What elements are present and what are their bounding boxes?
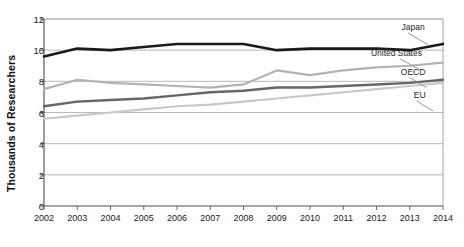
x-tick-label-2004: 2004: [100, 213, 120, 223]
x-tick-label-2006: 2006: [167, 213, 187, 223]
x-axis-tick-labels: 2002200320042005200620072008200920102011…: [0, 213, 464, 231]
series-label-japan: Japan: [401, 22, 424, 32]
chart-plot-area: [0, 0, 464, 247]
x-tick-label-2014: 2014: [433, 213, 453, 223]
x-tick-label-2008: 2008: [233, 213, 253, 223]
leader-line-japan: [408, 33, 428, 45]
x-tick-label-2007: 2007: [200, 213, 220, 223]
leader-line-eu: [416, 101, 433, 111]
line-chart: Thousands of Researchers 024681012 20022…: [0, 0, 464, 247]
series-label-eu: EU: [414, 90, 426, 100]
series-label-oecd: OECD: [401, 67, 426, 77]
x-tick-label-2003: 2003: [67, 213, 87, 223]
x-tick-label-2002: 2002: [34, 213, 54, 223]
x-tick-label-2012: 2012: [366, 213, 386, 223]
series-label-united-states: United States: [371, 48, 422, 58]
x-tick-label-2009: 2009: [267, 213, 287, 223]
x-tick-label-2011: 2011: [334, 213, 353, 223]
x-tick-label-2013: 2013: [400, 213, 420, 223]
x-tick-label-2005: 2005: [134, 213, 154, 223]
x-tick-label-2010: 2010: [300, 213, 320, 223]
